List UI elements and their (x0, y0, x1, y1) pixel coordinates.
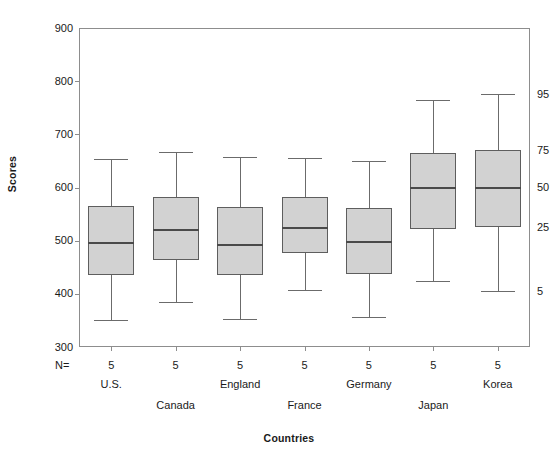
x-tick-mark (111, 346, 112, 351)
whisker-cap-upper (223, 157, 257, 158)
n-value: 5 (413, 360, 453, 371)
x-tick-mark (240, 346, 241, 351)
n-value: 5 (156, 360, 196, 371)
whisker-upper (369, 161, 370, 208)
whisker-upper (111, 159, 112, 206)
whisker-cap-lower (416, 281, 450, 282)
whisker-cap-upper (159, 152, 193, 153)
median-line (217, 244, 263, 246)
whisker-lower (369, 274, 370, 317)
whisker-cap-lower (481, 291, 515, 292)
whisker-cap-lower (288, 290, 322, 291)
category-label: Korea (458, 379, 538, 390)
x-axis-title: Countries (0, 432, 554, 444)
n-label: N= (55, 360, 69, 371)
whisker-upper (176, 152, 177, 197)
box-iqr (282, 197, 328, 253)
whisker-cap-lower (352, 317, 386, 318)
whisker-upper (498, 94, 499, 150)
median-line (475, 187, 521, 189)
y-tick-label: 500 (29, 235, 73, 246)
whisker-cap-lower (159, 302, 193, 303)
whisker-cap-lower (94, 320, 128, 321)
whisker-upper (240, 157, 241, 207)
box-iqr (410, 153, 456, 228)
percentile-label: 50 (537, 182, 549, 193)
y-axis-title: Scores (6, 144, 18, 204)
whisker-cap-lower (223, 319, 257, 320)
whisker-cap-upper (94, 159, 128, 160)
box-iqr (217, 207, 263, 275)
whisker-lower (305, 253, 306, 289)
y-tick-label: 600 (29, 182, 73, 193)
category-label: U.S. (71, 379, 151, 390)
y-tick-label: 300 (29, 342, 73, 353)
x-tick-mark (176, 346, 177, 351)
y-tick-mark (75, 241, 80, 242)
n-value: 5 (349, 360, 389, 371)
category-label: England (200, 379, 280, 390)
whisker-upper (433, 100, 434, 154)
y-tick-mark (75, 134, 80, 135)
y-tick-mark (75, 188, 80, 189)
median-line (153, 229, 199, 231)
y-tick-mark (75, 81, 80, 82)
percentile-label: 75 (537, 145, 549, 156)
whisker-upper (305, 158, 306, 197)
n-value: 5 (91, 360, 131, 371)
median-line (282, 227, 328, 229)
whisker-cap-upper (416, 100, 450, 101)
percentile-label: 5 (537, 286, 543, 297)
median-line (346, 241, 392, 243)
x-tick-mark (498, 346, 499, 351)
box-iqr (88, 206, 134, 275)
box-iqr (475, 150, 521, 227)
percentile-label: 25 (537, 222, 549, 233)
x-tick-mark (369, 346, 370, 351)
n-value: 5 (220, 360, 260, 371)
x-tick-mark (433, 346, 434, 351)
y-tick-label: 800 (29, 76, 73, 87)
median-line (410, 187, 456, 189)
n-value: 5 (478, 360, 518, 371)
y-tick-label: 900 (29, 23, 73, 34)
category-label: Japan (393, 400, 473, 411)
whisker-lower (433, 229, 434, 281)
whisker-lower (176, 260, 177, 301)
whisker-lower (498, 227, 499, 291)
whisker-lower (240, 275, 241, 319)
y-tick-mark (75, 294, 80, 295)
percentile-label: 95 (537, 89, 549, 100)
whisker-cap-upper (352, 161, 386, 162)
whisker-cap-upper (481, 94, 515, 95)
category-label: France (265, 400, 345, 411)
y-tick-label: 700 (29, 129, 73, 140)
n-value: 5 (285, 360, 325, 371)
category-label: Germany (329, 379, 409, 390)
x-tick-mark (305, 346, 306, 351)
whisker-cap-upper (288, 158, 322, 159)
y-tick-label: 400 (29, 288, 73, 299)
category-label: Canada (136, 400, 216, 411)
whisker-lower (111, 275, 112, 320)
median-line (88, 242, 134, 244)
